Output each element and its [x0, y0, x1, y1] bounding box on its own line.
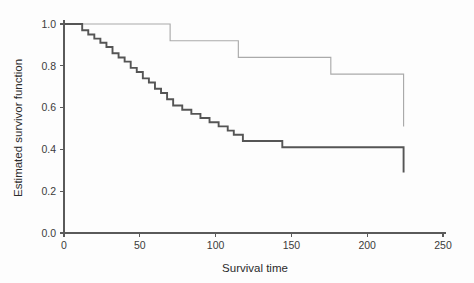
y-tick-label: 0.2 [41, 185, 56, 197]
x-tick-label: 100 [207, 239, 225, 251]
survivor-curve-group-2 [64, 24, 404, 126]
x-tick-label: 200 [358, 239, 376, 251]
x-axis-title: Survival time [222, 262, 288, 274]
y-tick-label: 1.0 [41, 18, 56, 30]
x-axis-ticks: 050100150200250 [61, 233, 452, 251]
x-tick-label: 250 [434, 239, 452, 251]
survivor-curve-group-1 [64, 24, 404, 172]
curve-group [64, 24, 404, 172]
survival-plot-svg: 0.00.20.40.60.81.0 050100150200250 Survi… [0, 0, 474, 283]
y-axis-ticks: 0.00.20.40.60.81.0 [41, 18, 64, 239]
y-tick-label: 0.8 [41, 60, 56, 72]
x-tick-label: 0 [61, 239, 67, 251]
y-axis-title: Estimated survivor function [12, 59, 24, 197]
x-tick-label: 150 [283, 239, 301, 251]
plot-axes [64, 20, 446, 233]
y-tick-label: 0.6 [41, 101, 56, 113]
x-tick-label: 50 [134, 239, 146, 251]
y-tick-label: 0.4 [41, 143, 56, 155]
chart-figure: 0.00.20.40.60.81.0 050100150200250 Survi… [0, 0, 474, 283]
y-tick-label: 0.0 [41, 227, 56, 239]
